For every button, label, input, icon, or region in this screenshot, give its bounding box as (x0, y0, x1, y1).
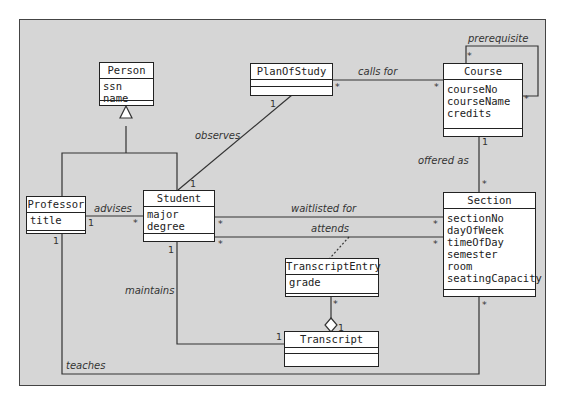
class-name: TranscriptEntry (286, 259, 378, 275)
maintains-line (177, 241, 284, 344)
label-waitlisted-for: waitlisted for (291, 203, 356, 214)
mult-attends-student: * (218, 238, 223, 249)
mult-attends-section: * (433, 238, 438, 249)
class-name: Section (444, 193, 535, 209)
mult-maintains-transcript: 1 (276, 331, 282, 342)
attribute: ssn (103, 80, 150, 92)
attribute: grade (289, 276, 375, 288)
mult-advises-student: * (133, 217, 138, 228)
generalization-triangle (120, 106, 132, 118)
label-teaches: teaches (66, 360, 105, 371)
class-name: Professor (27, 197, 85, 213)
class-plan-of-study[interactable]: PlanOfStudy (250, 63, 333, 96)
attribute: semester (447, 248, 532, 260)
attribute: dayOfWeek (447, 224, 532, 236)
mult-calls-for-plan: * (335, 81, 340, 92)
aggregation-diamond (325, 318, 337, 332)
mult-waitlisted-section: * (433, 218, 438, 229)
class-professor[interactable]: Professor title (26, 196, 86, 234)
mult-teaches-professor: 1 (53, 235, 59, 246)
label-attends: attends (311, 223, 349, 234)
attribute: seatingCapacity (447, 272, 532, 284)
class-name: PlanOfStudy (251, 64, 332, 80)
attribute: courseNo (447, 83, 519, 95)
class-student[interactable]: Student major degree (143, 190, 215, 242)
label-prerequisite: prerequisite (468, 33, 528, 44)
teaches-line (62, 233, 479, 374)
observes-line (178, 95, 292, 190)
class-name: Course (444, 64, 522, 80)
attribute: credits (447, 107, 519, 119)
association-class-dashed-line (330, 237, 349, 258)
mult-advises-professor: 1 (88, 217, 94, 228)
mult-aggregation-transcript: 1 (338, 322, 344, 333)
generalization-line (62, 126, 177, 196)
attribute: degree (147, 220, 211, 232)
class-name: Transcript (285, 332, 378, 348)
label-maintains: maintains (125, 285, 174, 296)
label-observes: observes (195, 130, 240, 141)
attribute: title (30, 214, 82, 226)
mult-observes-student: 1 (190, 178, 196, 189)
attribute: sectionNo (447, 212, 532, 224)
class-name: Student (144, 191, 214, 207)
mult-offered-as-section: * (482, 178, 487, 189)
attribute: name (103, 92, 150, 104)
label-advises: advises (94, 203, 132, 214)
class-course[interactable]: Course courseNo courseName credits (443, 63, 523, 137)
mult-waitlisted-student: * (218, 218, 223, 229)
mult-offered-as-course: 1 (482, 136, 488, 147)
attribute: room (447, 260, 532, 272)
class-person[interactable]: Person ssn name (99, 62, 154, 106)
label-calls-for: calls for (358, 66, 397, 77)
label-offered-as: offered as (418, 155, 469, 166)
mult-calls-for-course: * (434, 81, 439, 92)
mult-maintains-student: 1 (168, 244, 174, 255)
mult-aggregation-entry: * (333, 298, 338, 309)
class-section[interactable]: Section sectionNo dayOfWeek timeOfDay se… (443, 192, 536, 297)
mult-prerequisite-right: * (524, 93, 529, 104)
mult-prerequisite-top: * (467, 50, 472, 61)
class-transcript[interactable]: Transcript (284, 331, 379, 367)
attribute: timeOfDay (447, 236, 532, 248)
mult-observes-plan: 1 (270, 98, 276, 109)
mult-teaches-section: * (482, 299, 487, 310)
class-transcript-entry[interactable]: TranscriptEntry grade (285, 258, 379, 297)
class-name: Person (100, 63, 153, 79)
attribute: major (147, 208, 211, 220)
attribute: courseName (447, 95, 519, 107)
